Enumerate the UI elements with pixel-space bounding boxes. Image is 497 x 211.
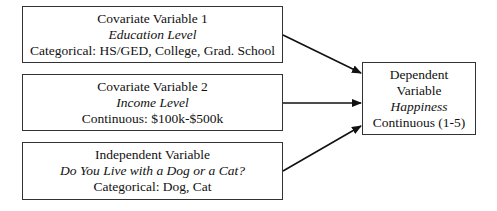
arrow-independent-to-dependent: [283, 126, 361, 171]
arrow-covariate-1-to-dependent: [283, 35, 361, 73]
arrows-layer: [0, 0, 497, 211]
